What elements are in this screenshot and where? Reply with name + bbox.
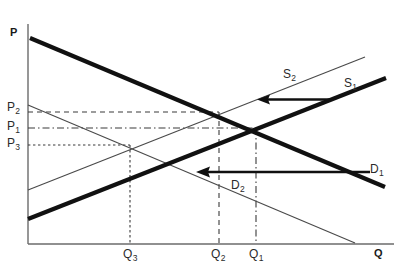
supply-curve-s2 <box>28 57 365 190</box>
guide-lines-group <box>28 112 256 244</box>
quantity-label-q3-base: Q <box>123 247 132 261</box>
curve-label-s1-sub: 1 <box>352 82 357 92</box>
chart-canvas <box>0 0 399 271</box>
curve-label-s2-base: S <box>283 67 291 81</box>
price-label-p1-base: P <box>7 119 15 133</box>
price-label-p3: P3 <box>7 137 20 149</box>
curve-label-s1-base: S <box>344 76 352 90</box>
supply-curve-s1 <box>28 78 386 219</box>
curve-label-s2: S2 <box>283 68 296 80</box>
curve-label-d1-base: D <box>370 162 379 176</box>
curve-label-d1: D1 <box>370 163 383 175</box>
price-label-p2-sub: 2 <box>15 106 20 116</box>
price-label-p2: P2 <box>7 101 20 113</box>
price-label-p3-sub: 3 <box>15 142 20 152</box>
y-axis-label: P <box>10 27 17 38</box>
price-label-p2-base: P <box>7 100 15 114</box>
quantity-label-q1-sub: 1 <box>259 253 264 263</box>
price-label-p1-sub: 1 <box>15 125 20 135</box>
curve-label-s2-sub: 2 <box>291 73 296 83</box>
supply-demand-figure: P Q P2 P1 P3 Q3 Q2 Q1 S2 S1 D1 D2 <box>0 0 399 271</box>
quantity-label-q1: Q1 <box>249 248 263 260</box>
curve-label-d1-sub: 1 <box>379 168 384 178</box>
quantity-label-q3: Q3 <box>123 248 137 260</box>
curve-label-s1: S1 <box>344 77 357 89</box>
quantity-label-q2-base: Q <box>211 247 220 261</box>
curve-label-d2: D2 <box>231 179 244 191</box>
quantity-label-q2: Q2 <box>211 248 225 260</box>
quantity-label-q3-sub: 3 <box>133 253 138 263</box>
curve-label-d2-sub: 2 <box>240 184 245 194</box>
price-label-p3-base: P <box>7 136 15 150</box>
quantity-label-q2-sub: 2 <box>221 253 226 263</box>
x-axis-label: Q <box>374 248 383 259</box>
price-label-p1: P1 <box>7 120 20 132</box>
axes-group <box>28 24 394 244</box>
demand-shift-arrow-head <box>196 167 210 178</box>
quantity-label-q1-base: Q <box>249 247 258 261</box>
curve-label-d2-base: D <box>231 178 240 192</box>
thin-curves-group <box>28 57 365 243</box>
